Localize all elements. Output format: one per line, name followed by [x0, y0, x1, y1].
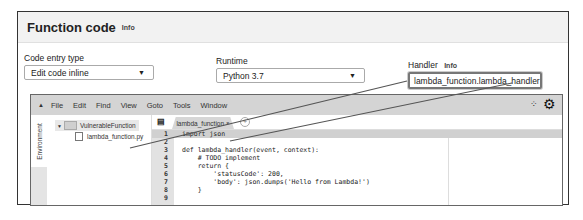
menu-window[interactable]: Window — [201, 101, 228, 110]
collapse-icon[interactable]: ▲ — [31, 102, 51, 108]
code-area[interactable]: 1import json 2 3def lambda_handler(event… — [152, 130, 562, 205]
environment-sidebar: Environment — [31, 115, 48, 205]
fullscreen-icon[interactable]: ⁘ — [530, 99, 537, 109]
gear-icon[interactable]: ⚙ — [543, 97, 556, 111]
line-number: 2 — [152, 138, 168, 146]
folder-icon — [64, 121, 77, 130]
menu-find[interactable]: Find — [96, 101, 111, 110]
code-entry-type-label: Code entry type — [24, 53, 84, 63]
close-tab-icon[interactable]: × — [226, 120, 230, 126]
menu-view[interactable]: View — [121, 101, 137, 110]
line-number: 4 — [152, 154, 168, 162]
tree-file[interactable]: lambda_function.py — [75, 132, 143, 141]
dropdown-arrow-icon: ▼ — [138, 69, 145, 76]
handler-value: lambda_function.lambda_handler — [414, 76, 540, 86]
code-line: 1import json — [152, 130, 562, 138]
handler-label: Handler Info — [408, 60, 457, 70]
code-line: 6 'statusCode': 200, — [152, 170, 562, 178]
code-line: 9 — [152, 194, 562, 202]
code-line: 2 — [152, 138, 562, 146]
code-line: 5 return { — [152, 162, 562, 170]
ide-body: Environment ▼ VulnerableFunction lambda_… — [31, 115, 562, 205]
python-file-icon — [75, 132, 83, 141]
runtime-value: Python 3.7 — [223, 71, 264, 81]
panel-header: Function code Info — [18, 12, 568, 43]
editor-tab-label: lambda_function — [176, 120, 224, 127]
runtime-select[interactable]: Python 3.7 ▼ — [216, 68, 365, 83]
line-number: 5 — [152, 162, 168, 170]
editor-tabbar: ▤ lambda_function × + — [152, 115, 562, 130]
function-code-panel: Function code Info Code entry type Edit … — [17, 11, 569, 205]
code-line: 8 } — [152, 186, 562, 194]
handler-input[interactable]: lambda_function.lambda_handler — [408, 72, 542, 89]
code-entry-type-value: Edit code inline — [31, 68, 89, 78]
code-entry-type-select[interactable]: Edit code inline ▼ — [24, 65, 154, 80]
environment-tab[interactable]: Environment — [31, 115, 47, 167]
ide-menubar: ▲ File Edit Find View Goto Tools Window … — [31, 95, 562, 115]
menu-tools[interactable]: Tools — [173, 101, 191, 110]
code-text: } — [182, 186, 202, 194]
tree-folder[interactable]: ▼ VulnerableFunction — [55, 120, 139, 131]
line-number: 3 — [152, 146, 168, 154]
line-number: 1 — [152, 130, 168, 138]
line-number: 9 — [152, 194, 168, 202]
ide-toolbar-right: ⁘ ⚙ — [530, 97, 556, 111]
folder-expand-icon[interactable]: ▼ — [57, 123, 62, 129]
code-text: 'statusCode': 200, — [182, 170, 284, 178]
editor-pane: ▤ lambda_function × + 1import json 2 3de… — [152, 115, 562, 205]
menu-edit[interactable]: Edit — [73, 101, 86, 110]
tab-menu-icon[interactable]: ▤ — [157, 117, 165, 126]
file-tree: ▼ VulnerableFunction lambda_function.py — [47, 115, 152, 205]
code-text: 'body': json.dumps('Hello from Lambda!') — [182, 178, 370, 186]
line-number: 8 — [152, 186, 168, 194]
dropdown-arrow-icon: ▼ — [349, 72, 356, 79]
editor-tab-lambda-function[interactable]: lambda_function × — [172, 117, 234, 129]
code-lines: 1import json 2 3def lambda_handler(event… — [152, 130, 562, 202]
folder-name: VulnerableFunction — [80, 122, 136, 129]
panel-title: Function code — [27, 20, 116, 35]
code-line: 4 # TODO implement — [152, 154, 562, 162]
file-name: lambda_function.py — [87, 133, 143, 140]
code-editor-ide: ▲ File Edit Find View Goto Tools Window … — [30, 94, 563, 206]
handler-info-link[interactable]: Info — [444, 62, 457, 69]
code-text: def lambda_handler(event, context): — [182, 146, 319, 154]
code-text: return { — [182, 162, 229, 170]
menu-file[interactable]: File — [51, 101, 63, 110]
code-text: # TODO implement — [182, 154, 260, 162]
line-number: 6 — [152, 170, 168, 178]
add-tab-icon[interactable]: + — [240, 117, 250, 127]
info-link[interactable]: Info — [122, 24, 135, 31]
code-line: 3def lambda_handler(event, context): — [152, 146, 562, 154]
menu-goto[interactable]: Goto — [147, 101, 163, 110]
handler-label-text: Handler — [408, 60, 438, 70]
environment-tab-label: Environment — [36, 123, 43, 160]
runtime-label: Runtime — [216, 56, 248, 66]
code-text: import json — [182, 130, 225, 138]
line-number: 7 — [152, 178, 168, 186]
code-line: 7 'body': json.dumps('Hello from Lambda!… — [152, 178, 562, 186]
